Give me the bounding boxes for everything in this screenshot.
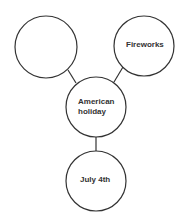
connector-top-right [114,67,123,82]
top-right-node-label: Fireworks [126,40,164,50]
bottom-node-label: July 4th [80,175,110,185]
node-top-left-circle [15,16,77,78]
center-label-line2: holiday [78,107,114,117]
center-node-label: American holiday [78,97,114,117]
center-label-line1: American [78,97,114,107]
connector-top-left [68,70,76,83]
